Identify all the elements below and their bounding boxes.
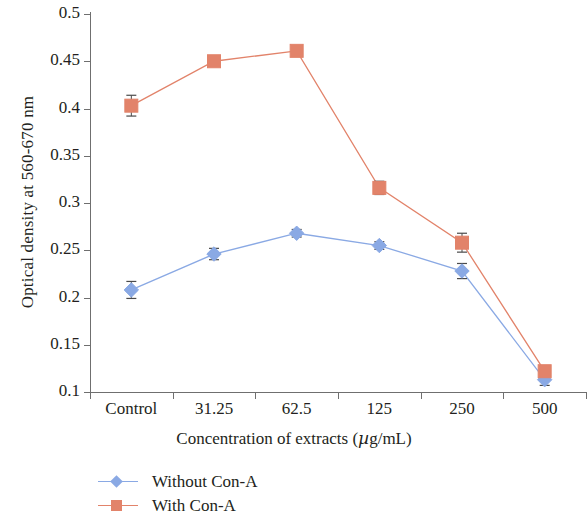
chart-plot-area [0, 0, 588, 460]
data-point-square [208, 55, 221, 68]
x-axis-title: Concentration of extracts (µg/mL) [0, 428, 588, 449]
data-point-diamond [124, 283, 138, 297]
series-line [131, 233, 544, 379]
data-point-square [538, 365, 551, 378]
legend-item-with-con-a: With Con-A [98, 494, 418, 518]
data-point-square [456, 236, 469, 249]
series-without-con-a [124, 226, 552, 387]
x-axis-title-suffix: g/mL) [369, 429, 412, 448]
series-line [131, 51, 544, 371]
data-point-square [373, 181, 386, 194]
chart-legend: Without Con-A With Con-A [98, 470, 418, 518]
chart-figure: Optical density at 560-670 nm 0.10.150.2… [0, 0, 588, 521]
x-axis-title-prefix: Concentration of extracts ( [176, 429, 358, 448]
data-point-diamond [455, 264, 469, 278]
data-point-diamond [372, 238, 386, 252]
data-point-diamond [289, 226, 303, 240]
legend-item-without-con-a: Without Con-A [98, 470, 418, 494]
legend-label-with-con-a: With Con-A [138, 496, 236, 516]
square-marker-icon [98, 497, 138, 515]
legend-label-without-con-a: Without Con-A [138, 472, 258, 492]
data-point-square [125, 99, 138, 112]
series-with-con-a [125, 44, 551, 377]
diamond-marker-icon [98, 473, 138, 491]
data-point-square [290, 44, 303, 57]
x-axis-title-mu: µ [358, 428, 369, 448]
data-point-diamond [207, 247, 221, 261]
